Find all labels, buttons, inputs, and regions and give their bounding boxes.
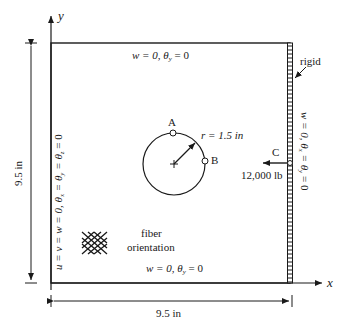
bc-left: u = v = w = 0, θx = θy = θz = 0 (53, 134, 66, 270)
point-c-label: C (272, 147, 279, 158)
bc-right: w = 0, θx = θy = 0 (297, 112, 310, 190)
point-a-marker (170, 130, 176, 136)
bc-bottom: w = 0, θy = 0 (146, 263, 203, 276)
point-a-label: A (168, 117, 176, 128)
fiber-orientation-icon (82, 232, 107, 254)
point-b-marker (202, 158, 208, 164)
radius-label: r = 1.5 in (201, 130, 243, 141)
bc-top: w = 0, θy = 0 (132, 50, 189, 63)
load-magnitude-label: 12,000 lb (241, 170, 283, 181)
y-axis-label: y (58, 9, 64, 22)
radius-arrow (174, 143, 195, 164)
x-axis-label: x (327, 276, 333, 289)
width-dimension-label: 9.5 in (156, 308, 181, 319)
point-b-label: B (211, 155, 218, 166)
rigid-label: rigid (300, 56, 321, 67)
height-dimension-label: 9.5 in (13, 161, 24, 186)
point-c-marker (288, 161, 293, 166)
rigid-pointer (295, 67, 306, 78)
fiber-label-line1: fiber (141, 228, 162, 239)
fiber-label-line2: orientation (127, 242, 175, 253)
